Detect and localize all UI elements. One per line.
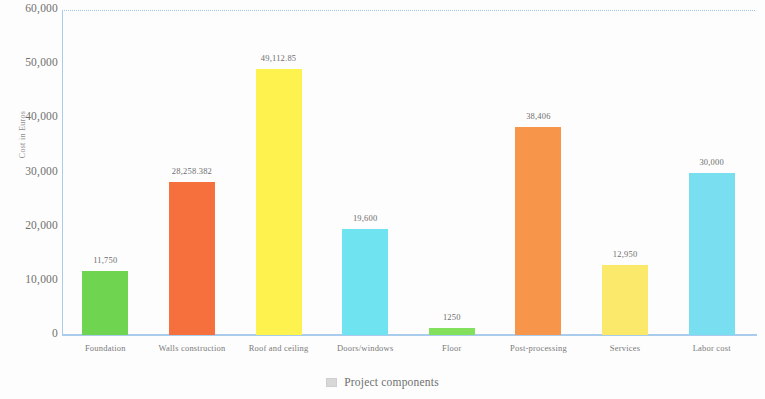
bar[interactable] — [429, 328, 475, 335]
bar-slot: 28,258.382 — [149, 10, 236, 335]
bar[interactable] — [342, 229, 388, 335]
bar[interactable] — [689, 173, 735, 336]
bar-value-label: 11,750 — [93, 255, 117, 265]
bar[interactable] — [256, 69, 302, 335]
bar-value-label: 38,406 — [526, 111, 551, 121]
bar-value-label: 30,000 — [699, 157, 724, 167]
bar-value-label: 28,258.382 — [172, 166, 212, 176]
bar[interactable] — [169, 182, 215, 335]
legend: Project components — [0, 376, 765, 388]
y-axis-tick-label: 40,000 — [2, 110, 58, 122]
y-axis-tick-labels: 010,00020,00030,00040,00050,00060,000 — [0, 0, 58, 399]
bar[interactable] — [82, 271, 128, 335]
bar-slot: 49,112.85 — [235, 10, 322, 335]
bar-value-label: 1250 — [443, 312, 461, 322]
bar-slot: 12,950 — [582, 10, 669, 335]
bar-value-label: 12,950 — [613, 249, 638, 259]
y-axis-tick-label: 10,000 — [2, 273, 58, 285]
x-axis-tick-label: Services — [610, 343, 640, 353]
x-axis-tick-label: Roof and ceiling — [249, 343, 309, 353]
bar[interactable] — [515, 127, 561, 335]
legend-label: Project components — [344, 376, 439, 388]
x-axis-tick-label: Labor cost — [693, 343, 731, 353]
x-axis-tick-label: Floor — [442, 343, 461, 353]
bar-value-label: 49,112.85 — [261, 53, 297, 63]
y-axis-tick-label: 30,000 — [2, 165, 58, 177]
x-axis-tick-labels: FoundationWalls constructionRoof and cei… — [62, 343, 755, 363]
y-axis-tick-label: 20,000 — [2, 219, 58, 231]
x-axis-tick-label: Doors/windows — [337, 343, 393, 353]
bar-slot: 11,750 — [62, 10, 149, 335]
x-axis-tick-label: Walls construction — [158, 343, 225, 353]
bars-layer: 11,75028,258.38249,112.8519,600125038,40… — [62, 10, 755, 335]
x-axis-tick-label: Post-processing — [510, 343, 567, 353]
bar-slot: 1250 — [409, 10, 496, 335]
x-axis-tick-label: Foundation — [85, 343, 126, 353]
bar-value-label: 19,600 — [353, 213, 378, 223]
bar-slot: 30,000 — [668, 10, 755, 335]
legend-swatch-icon — [326, 378, 337, 387]
bar-chart: Cost in Euros 010,00020,00030,00040,0005… — [0, 0, 765, 399]
y-axis-tick-label: 60,000 — [2, 2, 58, 14]
bar-slot: 38,406 — [495, 10, 582, 335]
bar-slot: 19,600 — [322, 10, 409, 335]
y-axis-tick-label: 0 — [2, 327, 58, 339]
y-axis-tick-label: 50,000 — [2, 56, 58, 68]
bar[interactable] — [602, 265, 648, 335]
